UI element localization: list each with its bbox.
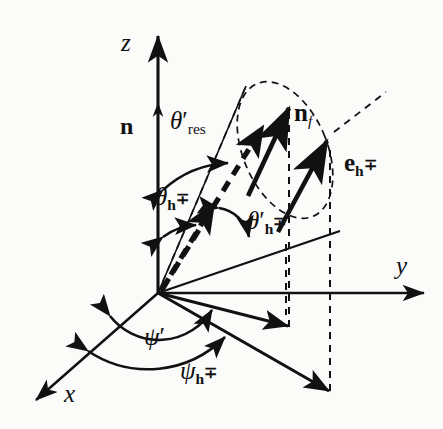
projection-arrow-psi-prime [158, 293, 288, 326]
inplane-guide-line [158, 231, 340, 293]
theta-res-sub: res [188, 121, 206, 137]
psi-h-base: ψ [180, 357, 196, 384]
psi-prime-base: ψ [144, 323, 160, 350]
angle-label-theta-res: θ′res [170, 108, 206, 136]
vector-label-n: n [120, 114, 133, 138]
angle-label-theta-h: θh∓ [155, 184, 189, 212]
axis-label-z: z [121, 30, 131, 55]
vector-label-eh: eh∓ [344, 150, 377, 178]
vector-nf-arrow [248, 108, 289, 196]
theta-h-base: θ [155, 183, 167, 210]
psi-prime-prime: ′ [160, 323, 165, 350]
psi-h-sub-sup: ∓ [204, 365, 217, 381]
theta-h-sub-sup: ∓ [176, 191, 189, 207]
psi-h-sub: h [196, 371, 205, 387]
axis-label-x: x [64, 381, 75, 406]
vector-label-eh-sub: h [355, 163, 364, 179]
axis-label-y: y [396, 253, 407, 278]
vector-label-eh-base: e [344, 149, 355, 176]
vector-geometry-diagram: z x y n θ′res θh∓ θ′h∓ nf eh∓ ψ′ ψh∓ [0, 0, 443, 429]
angle-label-psi-h: ψh∓ [180, 358, 217, 386]
arc-theta-h-prime [219, 208, 249, 237]
angle-label-psi-prime: ψ′ [144, 324, 165, 349]
vector-label-nf-sub: f [308, 113, 312, 129]
vector-label-n-base: n [120, 113, 133, 139]
vector-label-nf: nf [294, 100, 312, 128]
theta-res-base: θ [170, 107, 182, 134]
theta-h-prime-base: θ [247, 207, 259, 234]
vector-label-nf-base: n [294, 99, 308, 126]
angle-label-theta-h-prime: θ′h∓ [247, 208, 286, 236]
axis-x [36, 293, 158, 400]
vector-label-eh-sub-sup: ∓ [364, 157, 377, 173]
arc-theta-h [163, 225, 196, 237]
theta-h-sub: h [167, 197, 176, 213]
diagram-canvas [0, 0, 443, 429]
eh-extension-dashed [334, 92, 386, 132]
theta-h-prime-sub: h [265, 221, 274, 237]
theta-h-prime-sub-sup: ∓ [273, 215, 286, 231]
